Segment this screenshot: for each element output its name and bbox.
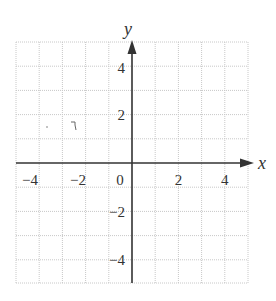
x-tick-label: 2 — [175, 172, 183, 188]
stray-marks — [46, 122, 76, 130]
x-tick-label: −2 — [70, 172, 86, 188]
x-tick-labels: −4 −2 0 2 4 — [22, 172, 229, 188]
x-tick-label: −4 — [22, 172, 38, 188]
y-tick-label: 4 — [118, 60, 126, 76]
coordinate-plane: x y −4 −2 0 2 4 4 2 −2 −4 — [0, 0, 276, 301]
x-tick-label: 0 — [116, 172, 124, 188]
x-tick-label: 4 — [221, 172, 229, 188]
y-tick-label: −4 — [109, 252, 125, 268]
x-axis-label: x — [257, 153, 266, 173]
y-tick-labels: 4 2 −2 −4 — [109, 60, 125, 268]
y-axis-label: y — [122, 19, 132, 39]
y-tick-label: 2 — [118, 107, 126, 123]
x-axis-arrow-icon — [240, 159, 254, 168]
y-tick-label: −2 — [109, 204, 125, 220]
